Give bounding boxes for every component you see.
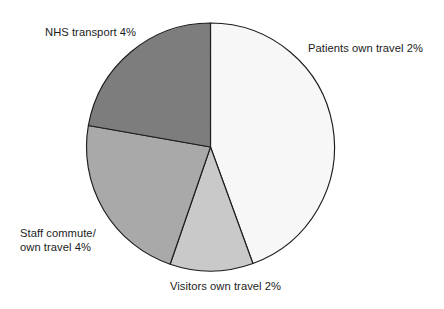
pie-slice-group — [86, 23, 334, 271]
slice-label-staff-commute: Staff commute/own travel 4% — [20, 227, 96, 254]
slice-label-nhs-transport: NHS transport 4% — [45, 26, 136, 40]
pie-chart: NHS transport 4% Patients own travel 2% … — [0, 0, 444, 309]
slice-label-patients-own-travel: Patients own travel 2% — [308, 42, 423, 56]
slice-label-staff-commute-line2: own travel 4% — [20, 241, 91, 253]
slice-label-staff-commute-line1: Staff commute/ — [20, 227, 96, 239]
slice-label-visitors-own-travel: Visitors own travel 2% — [170, 280, 281, 294]
pie-slice-nhs-transport — [88, 23, 210, 147]
